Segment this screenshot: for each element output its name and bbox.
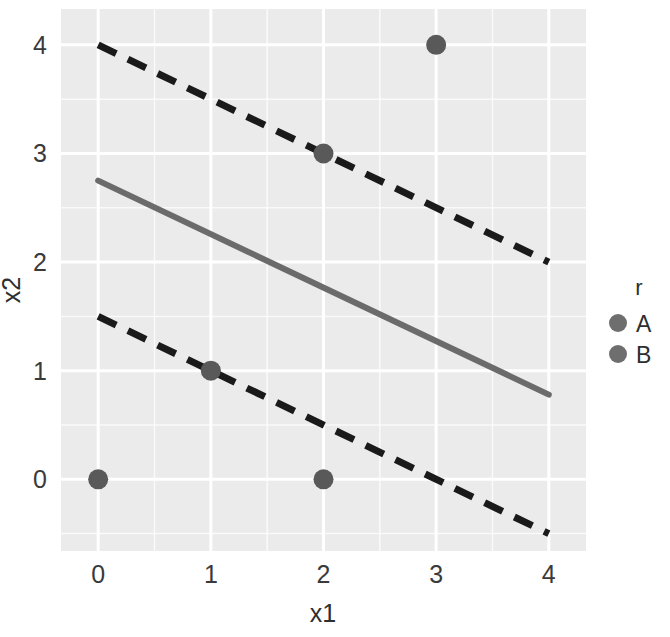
y-axis-tick-labels: 0 1 2 3 4	[33, 31, 47, 493]
data-point-b[interactable]	[314, 143, 334, 163]
x-tick-label-1: 1	[204, 560, 218, 588]
x-tick-label-0: 0	[91, 560, 105, 588]
legend-marker-b-icon	[609, 345, 627, 363]
data-point-a[interactable]	[314, 469, 334, 489]
x-tick-label-3: 3	[429, 560, 443, 588]
legend-item-a[interactable]: A	[609, 311, 652, 337]
y-tick-label-3: 3	[33, 139, 47, 167]
scatter-plot-svg: 0 1 2 3 4 0 1 2 3 4 x1 x2 r A B	[0, 0, 670, 637]
legend-label-b: B	[636, 342, 651, 368]
legend-item-b[interactable]: B	[609, 342, 651, 368]
x-tick-label-4: 4	[542, 560, 556, 588]
data-point-a[interactable]	[201, 361, 221, 381]
chart-container: 0 1 2 3 4 0 1 2 3 4 x1 x2 r A B	[0, 0, 670, 637]
y-tick-label-1: 1	[33, 357, 47, 385]
data-point-b[interactable]	[426, 35, 446, 55]
legend-marker-a-icon	[609, 314, 627, 332]
y-tick-label-0: 0	[33, 465, 47, 493]
x-tick-label-2: 2	[317, 560, 331, 588]
legend: r A B	[609, 275, 652, 368]
x-axis-title: x1	[310, 599, 336, 627]
legend-title: r	[635, 275, 642, 300]
y-tick-label-4: 4	[33, 31, 47, 59]
y-axis-title: x2	[0, 277, 25, 303]
x-axis-tick-labels: 0 1 2 3 4	[91, 560, 556, 588]
data-point-a[interactable]	[88, 469, 108, 489]
legend-label-a: A	[636, 311, 652, 337]
y-tick-label-2: 2	[33, 248, 47, 276]
